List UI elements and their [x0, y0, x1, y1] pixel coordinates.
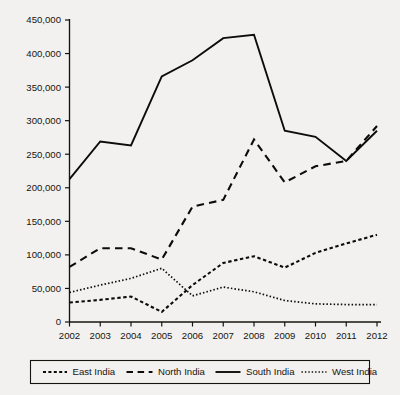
x-tick-label: 2003: [90, 330, 111, 341]
chart-legend: East IndiaNorth IndiaSouth IndiaWest Ind…: [31, 361, 378, 384]
y-tick-label: 200,000: [26, 182, 61, 193]
legend-label: West India: [332, 366, 378, 377]
legend-item-west-india[interactable]: West India: [302, 366, 378, 377]
series-layer: [70, 35, 378, 312]
x-tick-label: 2008: [243, 330, 264, 341]
x-axis: 2002200320042005200620072008200920102011…: [59, 322, 388, 341]
x-tick-label: 2004: [120, 330, 142, 341]
x-tick-label: 2005: [151, 330, 172, 341]
y-tick-label: 100,000: [26, 249, 61, 260]
line-chart: 050,000100,000150,000200,000250,000300,0…: [0, 0, 400, 395]
x-tick-label: 2011: [336, 330, 357, 341]
y-axis: 050,000100,000150,000200,000250,000300,0…: [26, 14, 69, 327]
legend-item-north-india[interactable]: North India: [127, 366, 206, 377]
x-tick-label: 2007: [213, 330, 234, 341]
y-tick-label: 0: [56, 316, 61, 327]
y-tick-label: 50,000: [32, 283, 61, 294]
series-line-west-india: [70, 268, 378, 304]
x-tick-label: 2010: [305, 330, 326, 341]
y-tick-label: 400,000: [26, 48, 61, 59]
legend-label: East India: [73, 366, 116, 377]
series-line-east-india: [70, 235, 378, 312]
y-tick-label: 350,000: [26, 82, 61, 93]
y-tick-label: 450,000: [26, 14, 61, 25]
y-tick-label: 250,000: [26, 149, 61, 160]
legend-label: South India: [246, 366, 295, 377]
x-tick-label: 2012: [366, 330, 387, 341]
x-tick-label: 2006: [182, 330, 203, 341]
x-tick-label: 2009: [274, 330, 295, 341]
series-line-south-india: [70, 35, 378, 179]
x-tick-label: 2002: [59, 330, 80, 341]
legend-item-east-india[interactable]: East India: [43, 366, 116, 377]
legend-label: North India: [158, 366, 206, 377]
y-tick-label: 150,000: [26, 216, 61, 227]
series-line-north-india: [70, 126, 378, 267]
legend-item-south-india[interactable]: South India: [216, 366, 296, 377]
chart-canvas: 050,000100,000150,000200,000250,000300,0…: [0, 0, 400, 395]
y-tick-label: 300,000: [26, 115, 61, 126]
